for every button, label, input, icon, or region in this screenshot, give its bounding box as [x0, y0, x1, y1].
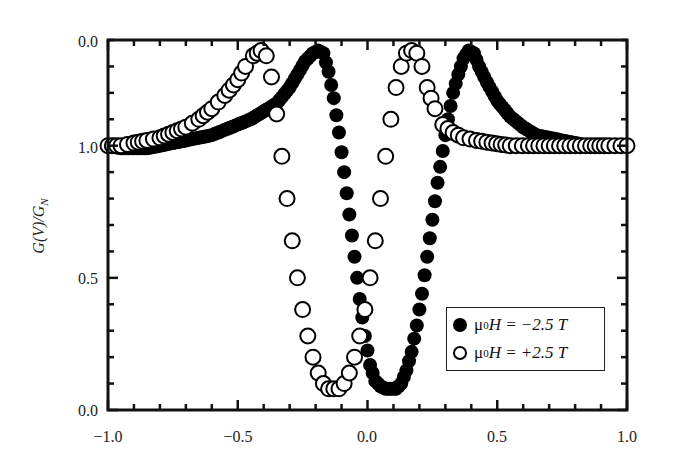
data-point: [306, 350, 321, 365]
data-point: [347, 350, 362, 365]
legend-item-plus-2p5T: μ0H = +2.5 T: [453, 341, 567, 365]
x-tick-label: 0.5: [487, 428, 507, 445]
data-point: [327, 91, 341, 105]
data-point: [427, 101, 442, 116]
data-point: [322, 65, 336, 79]
data-point: [423, 231, 437, 245]
data-point: [444, 99, 458, 113]
x-tick-label: 0.0: [357, 428, 377, 445]
y-axis-title: G(V)/GN: [30, 198, 50, 254]
legend-text: H = +2.5 T: [489, 343, 568, 363]
data-point: [431, 176, 445, 190]
x-axis-labels: −1.0 −0.5 0.0 0.5 1.0: [93, 428, 637, 445]
y-axis-labels: 0.0 0.5 1.0 0.0: [78, 33, 98, 419]
data-point: [295, 302, 310, 317]
data-point: [274, 149, 289, 164]
filled-circle-marker-icon: [453, 318, 467, 332]
data-point: [412, 303, 426, 317]
legend-mu: μ: [474, 343, 483, 363]
data-point: [420, 250, 434, 264]
x-tick-label: −0.5: [223, 428, 252, 445]
data-point: [418, 268, 432, 282]
data-point: [280, 191, 295, 206]
data-point: [415, 287, 429, 301]
data-point: [357, 302, 372, 317]
legend-text: H = −2.5 T: [489, 315, 568, 335]
data-point: [290, 270, 305, 285]
data-point: [345, 229, 359, 243]
data-point: [340, 186, 354, 200]
data-point: [389, 80, 404, 95]
data-point: [436, 144, 450, 158]
y-tick-label: 1.0: [78, 139, 98, 156]
data-point: [259, 48, 274, 63]
legend-item-minus-2p5T: μ0H = −2.5 T: [453, 313, 567, 337]
data-point: [410, 318, 424, 332]
data-point: [383, 112, 398, 127]
data-point: [264, 70, 279, 85]
data-point: [269, 107, 284, 122]
chart-canvas: −1.0 −0.5 0.0 0.5 1.0 0.0 0.5 1.0 0.0 G(…: [0, 0, 677, 462]
data-point: [300, 329, 315, 344]
legend: μ0H = −2.5 T μ0H = +2.5 T: [446, 307, 605, 371]
data-point: [329, 108, 343, 122]
data-point: [428, 194, 442, 208]
data-point: [324, 78, 338, 92]
data-point: [373, 191, 388, 206]
data-point: [405, 345, 419, 359]
data-point: [335, 145, 349, 159]
data-point: [414, 59, 429, 74]
data-point: [433, 160, 447, 174]
legend-mu: μ: [474, 315, 483, 335]
data-point: [337, 165, 351, 179]
data-point: [363, 270, 378, 285]
y-tick-label: 0.5: [78, 270, 98, 287]
data-point: [407, 332, 421, 346]
data-point: [332, 126, 346, 140]
data-point: [368, 233, 383, 248]
data-point: [425, 213, 439, 227]
data-point: [352, 329, 367, 344]
data-point: [342, 207, 356, 221]
open-circle-marker-icon: [453, 346, 467, 360]
data-point: [285, 233, 300, 248]
data-point: [348, 250, 362, 264]
data-point: [378, 149, 393, 164]
x-tick-label: 1.0: [617, 428, 637, 445]
data-point: [342, 366, 357, 381]
y-tick-label: 0.0: [78, 402, 98, 419]
y-tick-label: 0.0: [78, 33, 98, 50]
x-tick-label: −1.0: [93, 428, 122, 445]
